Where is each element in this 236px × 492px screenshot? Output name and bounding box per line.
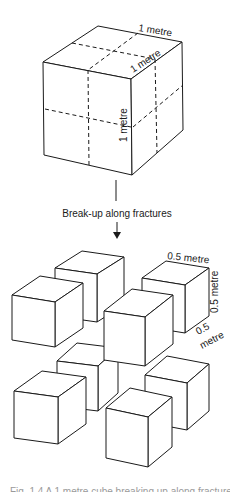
- half-metre-cubes: [12, 251, 209, 467]
- small-cube-B: [12, 276, 83, 347]
- diagram-canvas: 1 metre 1 metre 1 metre Break-up along f…: [0, 0, 236, 492]
- small-cube-front-face: [12, 295, 55, 347]
- arrow-down-icon: [113, 232, 121, 239]
- small-cube-label-vertical: 0.5 metre: [209, 270, 220, 313]
- small-cube-front-face: [104, 311, 145, 366]
- small-cube-F: [14, 371, 86, 444]
- small-cube-H: [106, 388, 172, 467]
- one-metre-cube: 1 metre 1 metre 1 metre: [43, 22, 183, 175]
- process-label: Break-up along fractures: [62, 208, 172, 219]
- fracture-diagram: 1 metre 1 metre 1 metre Break-up along f…: [0, 0, 236, 492]
- figure-caption: Fig. 1.4 A 1 metre cube breaking up alon…: [10, 484, 230, 492]
- small-cube-front-face: [106, 408, 148, 467]
- small-cube-front-face: [14, 391, 58, 444]
- big-cube-label-vertical: 1 metre: [118, 108, 129, 142]
